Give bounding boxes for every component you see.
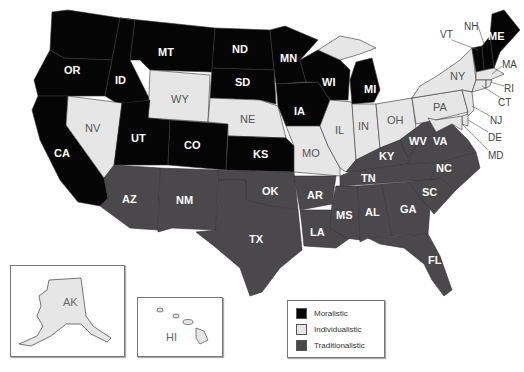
label-al: AL (365, 206, 380, 218)
traditionalistic-swatch (296, 340, 307, 351)
label-ma: MA (502, 59, 517, 70)
hawaii-inset: HI (137, 297, 223, 357)
alaska-shape: AK (11, 266, 124, 356)
label-vt: VT (440, 29, 453, 40)
label-ct: CT (498, 97, 511, 108)
label-mn: MN (280, 52, 297, 64)
label-in: IN (358, 120, 369, 132)
label-nm: NM (176, 194, 193, 206)
label-pa: PA (433, 101, 448, 113)
legend-item-moralistic: Moralistic (296, 307, 348, 319)
map-legend: Moralistic Individualistic Traditionalis… (287, 300, 385, 358)
label-tx: TX (249, 233, 264, 245)
label-hi: HI (166, 331, 177, 343)
hawaii-shape: HI (138, 298, 222, 356)
state-ak[interactable] (19, 278, 111, 346)
label-md: MD (488, 150, 504, 161)
state-ny[interactable] (412, 48, 476, 98)
label-ia: IA (294, 105, 305, 117)
label-oh: OH (387, 114, 404, 126)
label-me: ME (488, 30, 505, 42)
label-nv: NV (85, 122, 101, 134)
label-tn: TN (361, 172, 376, 184)
label-ga: GA (400, 203, 417, 215)
individualistic-swatch (296, 324, 307, 335)
legend-label: Moralistic (314, 309, 348, 318)
legend-item-individualistic: Individualistic (296, 323, 362, 335)
label-ms: MS (336, 209, 353, 221)
label-ny: NY (450, 70, 466, 82)
label-mo: MO (302, 147, 320, 159)
state-mt[interactable] (120, 18, 215, 72)
state-ia[interactable] (276, 82, 330, 126)
label-mt: MT (158, 46, 174, 58)
moralistic-swatch (296, 308, 307, 319)
label-nc: NC (436, 162, 452, 174)
state-de[interactable] (462, 114, 468, 126)
label-sc: SC (422, 186, 437, 198)
label-ak: AK (63, 296, 78, 308)
state-hi-oahu (173, 314, 179, 318)
legend-label: Traditionalistic (314, 341, 365, 350)
legend-label: Individualistic (314, 325, 362, 334)
label-ky: KY (379, 150, 395, 162)
label-co: CO (184, 139, 201, 151)
alaska-inset: AK (10, 265, 125, 357)
label-wi: WI (322, 76, 335, 88)
label-nj: NJ (490, 115, 502, 126)
state-hi-maui (183, 320, 193, 325)
legend-item-traditionalistic: Traditionalistic (296, 339, 365, 351)
label-id: ID (115, 74, 126, 86)
label-fl: FL (428, 254, 442, 266)
label-mi: MI (364, 83, 376, 95)
state-hi-big-island[interactable] (196, 328, 208, 344)
label-il: IL (335, 124, 344, 136)
label-ut: UT (131, 132, 146, 144)
state-ri[interactable] (486, 80, 492, 88)
label-or: OR (64, 64, 81, 76)
label-ks: KS (253, 148, 268, 160)
label-ri: RI (504, 83, 514, 94)
label-wy: WY (171, 93, 189, 105)
label-wv: WV (409, 135, 427, 147)
state-wa[interactable] (50, 10, 120, 60)
label-nh: NH (464, 21, 478, 32)
label-nd: ND (232, 43, 248, 55)
label-de: DE (488, 132, 502, 143)
state-mi[interactable] (350, 58, 380, 104)
label-sd: SD (235, 76, 250, 88)
label-va: VA (433, 135, 448, 147)
label-ca: CA (54, 147, 70, 159)
label-ok: OK (262, 185, 279, 197)
label-wa: WA (19, 26, 37, 38)
state-hi-kauai (157, 308, 163, 312)
label-la: LA (310, 226, 325, 238)
label-ar: AR (307, 189, 323, 201)
label-ne: NE (240, 113, 255, 125)
label-az: AZ (122, 193, 137, 205)
